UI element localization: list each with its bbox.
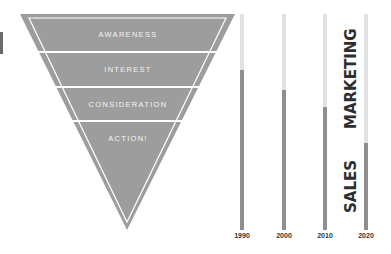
year-label-2010: 2010 xyxy=(310,232,340,239)
bar-2020-sales xyxy=(364,143,368,230)
year-label-1990: 1990 xyxy=(227,232,257,239)
year-label-2000: 2000 xyxy=(269,232,299,239)
funnel-stage-action: ACTION! xyxy=(48,134,208,143)
year-label-2020: 2020 xyxy=(351,232,381,239)
funnel-stage-interest: INTEREST xyxy=(48,65,208,74)
funnel-stage-consideration: CONSIDERATION xyxy=(48,100,208,109)
bar-2000-sales xyxy=(282,90,286,230)
diagram: AWARENESS INTEREST CONSIDERATION ACTION!… xyxy=(0,0,391,254)
bar-2020-marketing xyxy=(364,14,368,143)
funnel-stage-awareness: AWARENESS xyxy=(48,30,208,39)
marketing-label: MARKETING xyxy=(342,28,360,129)
bar-2010-sales xyxy=(323,107,327,230)
bar-1990-sales xyxy=(240,70,244,230)
bar-1990-marketing xyxy=(240,14,244,70)
sales-label: SALES xyxy=(342,160,360,213)
bar-2000-marketing xyxy=(282,14,286,90)
bar-2010-marketing xyxy=(323,14,327,107)
